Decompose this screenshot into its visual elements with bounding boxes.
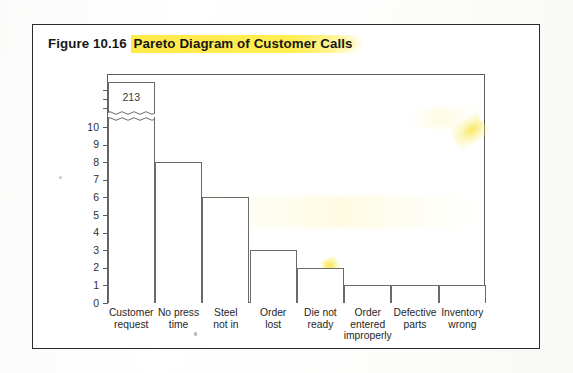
axis-break-squiggle — [107, 109, 156, 123]
category-label-line: wrong — [431, 319, 493, 331]
scan-dust-mark-2 — [59, 176, 62, 179]
bar-7 — [439, 285, 486, 303]
figure-number: Figure 10.16 — [48, 36, 127, 51]
bar-6 — [391, 285, 438, 303]
bar-0 — [108, 117, 155, 303]
category-label-line: Inventory — [431, 307, 493, 319]
bar-value-label: 213 — [108, 91, 155, 103]
bar-5 — [344, 285, 391, 303]
bar-2 — [202, 197, 249, 303]
figure-title: Figure 10.16 Pareto Diagram of Customer … — [48, 34, 355, 54]
bar-4 — [297, 268, 344, 303]
scan-dust-mark — [194, 332, 197, 336]
category-label-line: improperly — [337, 330, 399, 342]
category-label-7: Inventorywrong — [431, 307, 493, 330]
bar-1 — [155, 162, 202, 303]
figure-title-text: Pareto Diagram of Customer Calls — [131, 35, 355, 53]
bar-3 — [250, 250, 297, 303]
